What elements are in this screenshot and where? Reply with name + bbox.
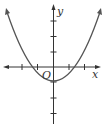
y-axis-up-arrow-icon [52, 4, 56, 10]
x-axis [3, 64, 101, 70]
parabola-graph: y x O [0, 0, 104, 125]
curve-right-arrow-icon [97, 8, 102, 15]
x-axis-left-arrow-icon [3, 65, 9, 69]
curve-left-arrow-icon [5, 8, 10, 15]
y-axis [51, 4, 57, 124]
y-axis-label: y [56, 5, 64, 18]
x-axis-label: x [92, 68, 99, 81]
origin-label: O [42, 69, 51, 82]
